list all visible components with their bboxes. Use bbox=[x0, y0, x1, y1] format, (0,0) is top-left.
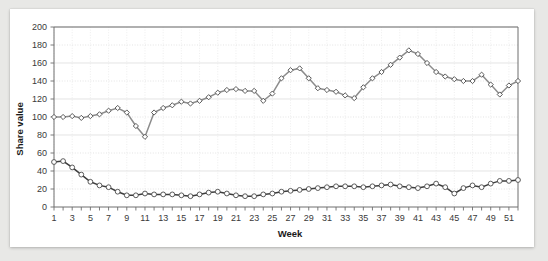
data-point bbox=[151, 110, 156, 115]
data-point bbox=[224, 191, 229, 196]
data-series-group bbox=[51, 48, 520, 199]
data-point bbox=[406, 185, 411, 190]
svg-text:25: 25 bbox=[267, 213, 277, 223]
data-point bbox=[507, 179, 512, 184]
data-point bbox=[233, 87, 238, 92]
svg-text:47: 47 bbox=[468, 213, 478, 223]
svg-text:3: 3 bbox=[70, 213, 75, 223]
data-point bbox=[497, 179, 502, 184]
data-point bbox=[106, 185, 111, 190]
data-point bbox=[61, 159, 66, 164]
svg-text:60: 60 bbox=[37, 148, 47, 158]
svg-text:31: 31 bbox=[322, 213, 332, 223]
svg-text:29: 29 bbox=[304, 213, 314, 223]
data-point bbox=[79, 115, 84, 120]
chart-card: 020406080100120140160180200 135791113151… bbox=[10, 9, 534, 247]
svg-text:19: 19 bbox=[213, 213, 223, 223]
data-point bbox=[370, 184, 375, 189]
series-lower-series bbox=[52, 159, 521, 199]
svg-text:15: 15 bbox=[176, 213, 186, 223]
data-point bbox=[161, 105, 166, 110]
svg-text:160: 160 bbox=[32, 58, 47, 68]
data-point bbox=[115, 189, 120, 194]
data-point bbox=[416, 186, 421, 191]
data-point bbox=[206, 190, 211, 195]
svg-text:27: 27 bbox=[286, 213, 296, 223]
data-point bbox=[516, 178, 521, 183]
data-point bbox=[106, 108, 111, 113]
svg-text:100: 100 bbox=[32, 112, 47, 122]
x-axis-title: Week bbox=[278, 228, 303, 239]
data-point bbox=[179, 99, 184, 104]
data-point bbox=[170, 192, 175, 197]
data-point bbox=[243, 194, 248, 199]
x-axis-tick-labels: 1357911131517192123252729313335373941434… bbox=[51, 213, 513, 223]
data-point bbox=[461, 78, 466, 83]
data-point bbox=[179, 193, 184, 198]
data-point bbox=[88, 179, 93, 184]
data-point bbox=[152, 192, 157, 197]
svg-text:180: 180 bbox=[32, 40, 47, 50]
data-point bbox=[443, 74, 448, 79]
data-point bbox=[161, 192, 166, 197]
data-point bbox=[270, 191, 275, 196]
data-point bbox=[70, 114, 75, 119]
svg-text:13: 13 bbox=[158, 213, 168, 223]
svg-text:49: 49 bbox=[486, 213, 496, 223]
svg-text:0: 0 bbox=[42, 202, 47, 212]
data-point bbox=[143, 191, 148, 196]
svg-text:21: 21 bbox=[231, 213, 241, 223]
data-point bbox=[170, 103, 175, 108]
data-point bbox=[470, 183, 475, 188]
svg-text:80: 80 bbox=[37, 130, 47, 140]
data-point bbox=[343, 93, 348, 98]
svg-text:41: 41 bbox=[413, 213, 423, 223]
data-point bbox=[324, 87, 329, 92]
series-upper-series bbox=[51, 48, 520, 140]
screenshot-root: 020406080100120140160180200 135791113151… bbox=[0, 0, 548, 261]
y-axis-title: Share value bbox=[14, 102, 25, 155]
data-point bbox=[188, 194, 193, 199]
data-point bbox=[352, 184, 357, 189]
data-point bbox=[388, 182, 393, 187]
svg-text:9: 9 bbox=[124, 213, 129, 223]
svg-text:11: 11 bbox=[140, 213, 149, 223]
svg-text:7: 7 bbox=[106, 213, 111, 223]
data-point bbox=[133, 193, 138, 198]
svg-text:45: 45 bbox=[449, 213, 459, 223]
data-point bbox=[115, 105, 120, 110]
data-point bbox=[479, 185, 484, 190]
data-point bbox=[443, 185, 448, 190]
data-point bbox=[60, 114, 65, 119]
chart-plot-area: 020406080100120140160180200 135791113151… bbox=[10, 9, 534, 247]
data-point bbox=[97, 112, 102, 117]
data-point bbox=[452, 191, 457, 196]
y-axis-tick-labels: 020406080100120140160180200 bbox=[32, 22, 47, 212]
svg-text:17: 17 bbox=[195, 213, 205, 223]
svg-text:140: 140 bbox=[32, 76, 47, 86]
data-point bbox=[306, 187, 311, 192]
data-point bbox=[188, 101, 193, 106]
data-point bbox=[51, 114, 56, 119]
data-point bbox=[88, 114, 93, 119]
data-point bbox=[343, 184, 348, 189]
data-point bbox=[242, 88, 247, 93]
data-point bbox=[434, 181, 439, 186]
data-point bbox=[79, 172, 84, 177]
svg-text:33: 33 bbox=[340, 213, 350, 223]
data-point bbox=[70, 165, 75, 170]
data-point bbox=[333, 89, 338, 94]
data-point bbox=[124, 193, 129, 198]
data-point bbox=[425, 184, 430, 189]
data-point bbox=[325, 185, 330, 190]
svg-text:39: 39 bbox=[395, 213, 405, 223]
gridlines bbox=[54, 27, 518, 207]
data-point bbox=[52, 160, 57, 165]
svg-text:120: 120 bbox=[32, 94, 47, 104]
data-point bbox=[215, 189, 220, 194]
svg-text:51: 51 bbox=[504, 213, 514, 223]
data-point bbox=[252, 194, 257, 199]
data-point bbox=[334, 184, 339, 189]
data-point bbox=[279, 189, 284, 194]
svg-text:43: 43 bbox=[431, 213, 441, 223]
